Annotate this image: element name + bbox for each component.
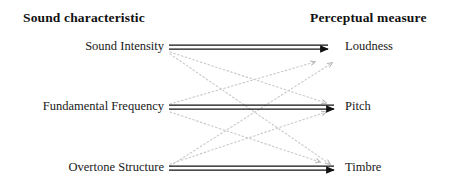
column-header-perceptual-measure: Perceptual measure bbox=[310, 10, 427, 26]
diagram-canvas: Sound characteristic Perceptual measure … bbox=[0, 0, 462, 188]
source-label-sound-intensity: Sound Intensity bbox=[85, 39, 164, 54]
arrow-overtone-to-pitch bbox=[170, 112, 326, 164]
source-label-overtone-structure: Overtone Structure bbox=[69, 160, 164, 175]
arrow-intensity-to-pitch bbox=[170, 52, 326, 103]
arrow-frequency-to-pitch bbox=[169, 105, 334, 109]
arrow-intensity-to-loudness bbox=[169, 45, 328, 49]
arrow-overtone-to-timbre bbox=[169, 166, 334, 170]
target-label-pitch: Pitch bbox=[345, 99, 371, 114]
target-label-timbre: Timbre bbox=[345, 160, 381, 175]
arrow-frequency-to-timbre bbox=[170, 112, 320, 162]
arrow-frequency-to-loudness bbox=[170, 62, 315, 104]
source-label-fundamental-frequency: Fundamental Frequency bbox=[43, 99, 164, 114]
column-header-sound-characteristic: Sound characteristic bbox=[23, 10, 145, 26]
target-label-loudness: Loudness bbox=[345, 39, 393, 54]
arrow-overtone-to-loudness bbox=[170, 63, 332, 166]
arrow-intensity-to-timbre bbox=[170, 54, 330, 164]
